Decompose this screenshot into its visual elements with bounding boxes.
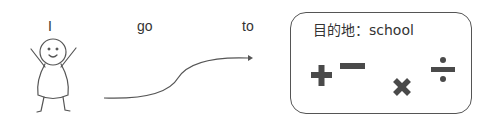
curved-arrow-icon <box>104 55 253 98</box>
times-icon <box>395 80 409 94</box>
destination-box: 目的地：school <box>290 12 472 114</box>
minus-icon <box>340 63 365 69</box>
stick-figure-icon <box>31 39 76 112</box>
plus-icon <box>311 65 332 86</box>
divide-icon <box>431 57 455 82</box>
operator-symbols <box>291 13 473 115</box>
